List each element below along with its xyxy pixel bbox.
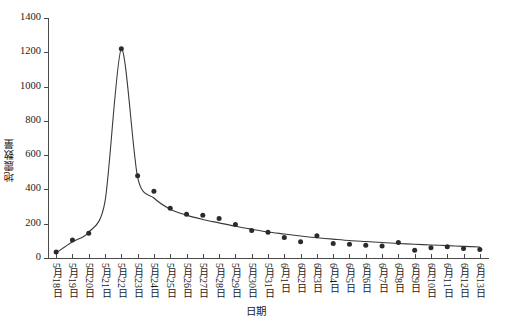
- data-point: [168, 206, 173, 211]
- x-axis-tick-label: 5月23日: [133, 263, 143, 298]
- earthquake-count-chart: 地震数量 0200400600800100012001400 5月18日5月19…: [0, 0, 512, 323]
- x-axis-tick-label: 6月1日: [279, 263, 289, 293]
- x-axis-tick-label: 5月21日: [100, 263, 110, 298]
- data-point: [298, 239, 303, 244]
- x-axis-tick-label: 6月11日: [442, 263, 452, 298]
- x-axis-tick-label: 6月2日: [296, 263, 306, 293]
- data-point: [282, 235, 287, 240]
- y-axis-tick-mark: [44, 258, 48, 259]
- data-point: [135, 173, 140, 178]
- x-axis-tick-label: 6月5日: [344, 263, 354, 293]
- x-axis-tick-label: 6月7日: [377, 263, 387, 293]
- data-point: [266, 230, 271, 235]
- x-axis-tick-label: 5月27日: [198, 263, 208, 298]
- y-axis-tick-label: 800: [0, 114, 41, 125]
- x-axis-tick-label: 5月20日: [84, 263, 94, 298]
- x-axis-tick-label: 6月10日: [426, 263, 436, 298]
- data-point: [445, 244, 450, 249]
- data-point: [412, 248, 417, 253]
- data-point: [331, 241, 336, 246]
- data-point: [86, 231, 91, 236]
- data-point-markers: [54, 46, 483, 254]
- y-axis-tick-label: 1000: [0, 80, 41, 91]
- x-axis-tick-label: 5月29日: [230, 263, 240, 298]
- x-axis-tick-label: 5月25日: [165, 263, 175, 298]
- plot-area: [48, 18, 488, 258]
- x-axis-tick-label: 5月30日: [247, 263, 257, 298]
- data-point: [233, 222, 238, 227]
- x-axis-tick-label: 6月3日: [312, 263, 322, 293]
- x-axis-tick-label: 5月19日: [67, 263, 77, 298]
- fit-curve-path: [56, 49, 480, 253]
- data-point: [363, 243, 368, 248]
- data-point: [347, 242, 352, 247]
- x-axis-tick-label: 6月6日: [361, 263, 371, 293]
- data-point: [70, 238, 75, 243]
- y-axis-tick-label: 200: [0, 217, 41, 228]
- x-axis-tick-label: 5月31日: [263, 263, 273, 298]
- x-axis-tick-label: 5月18日: [51, 263, 61, 298]
- data-point: [380, 244, 385, 249]
- x-axis-title: 日期: [0, 303, 512, 318]
- data-point: [151, 189, 156, 194]
- x-axis-tick-label: 6月8日: [393, 263, 403, 293]
- x-axis-tick-label: 6月12日: [459, 263, 469, 298]
- data-point: [184, 212, 189, 217]
- x-axis-line: [48, 258, 489, 259]
- data-point: [217, 216, 222, 221]
- x-axis-tick-label: 6月9日: [410, 263, 420, 293]
- data-point: [249, 228, 254, 233]
- data-point: [428, 245, 433, 250]
- x-axis-tick-label: 6月13日: [475, 263, 485, 298]
- data-point: [54, 250, 59, 255]
- data-point: [200, 213, 205, 218]
- data-point: [396, 240, 401, 245]
- y-axis-tick-label: 1200: [0, 45, 41, 56]
- data-point: [314, 233, 319, 238]
- data-point: [461, 246, 466, 251]
- x-axis-tick-label: 5月22日: [116, 263, 126, 298]
- data-point: [119, 46, 124, 51]
- data-point: [477, 247, 482, 252]
- x-axis-tick-label: 6月4日: [328, 263, 338, 293]
- y-axis-tick-label: 600: [0, 148, 41, 159]
- x-axis-tick-label: 5月24日: [149, 263, 159, 298]
- y-axis-tick-label: 400: [0, 182, 41, 193]
- y-axis-tick-label: 0: [0, 251, 41, 262]
- x-axis-tick-label: 5月26日: [182, 263, 192, 298]
- data-overlay: [48, 18, 488, 258]
- y-axis-title: 地震数量: [4, 138, 18, 182]
- y-axis-tick-label: 1400: [0, 11, 41, 22]
- x-axis-tick-label: 5月28日: [214, 263, 224, 298]
